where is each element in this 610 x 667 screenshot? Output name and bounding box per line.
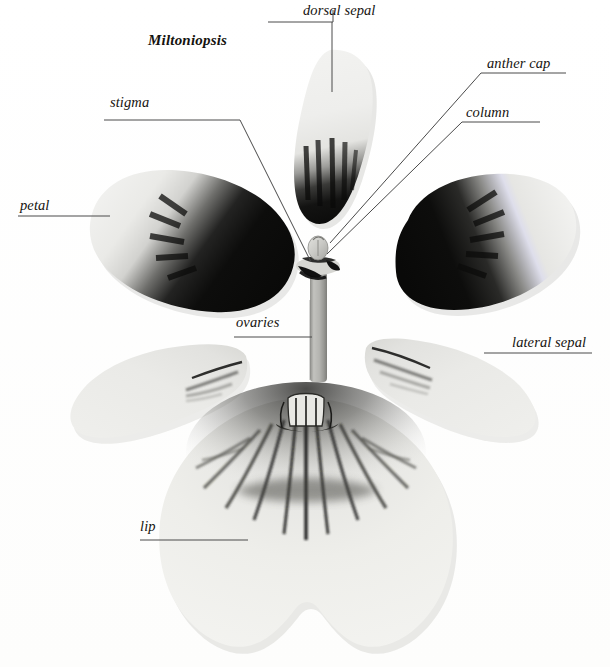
label-petal: petal (20, 198, 50, 213)
genus-title: Miltoniopsis (148, 33, 227, 48)
label-lip: lip (140, 519, 156, 534)
label-lateral-sepal: lateral sepal (512, 335, 586, 350)
label-column: column (466, 105, 509, 120)
label-stigma: stigma (110, 95, 149, 110)
ovary-stalk (310, 272, 327, 382)
label-ovaries: ovaries (236, 315, 279, 330)
label-dorsal-sepal: dorsal sepal (303, 3, 376, 18)
anther-cap (308, 236, 328, 260)
label-anther-cap: anther cap (487, 56, 550, 71)
